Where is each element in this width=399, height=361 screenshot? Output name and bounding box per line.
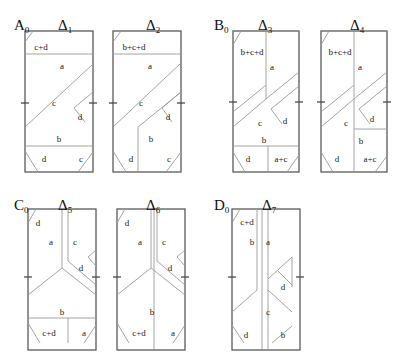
group-label-b: B0 (214, 18, 229, 33)
panel-title-delta5: Δ5 (58, 198, 72, 213)
panel-title-subscript: 2 (156, 25, 161, 35)
region-label: d (166, 112, 171, 122)
region-label: b (149, 134, 154, 144)
panel-title-delta4: Δ4 (350, 18, 364, 33)
region-label: d (129, 154, 134, 164)
panel-border-delta7 (232, 209, 300, 350)
region-label: b (150, 307, 155, 317)
group-label-subscript: 0 (225, 205, 230, 215)
panel-title-delta2: Δ2 (146, 18, 160, 33)
panel-title-subscript: 6 (156, 205, 161, 215)
region-label: d (283, 116, 288, 126)
panel-title-subscript: 5 (68, 205, 73, 215)
panel-title-delta6: Δ6 (146, 198, 160, 213)
region-label: b (57, 134, 62, 144)
region-label: b (262, 135, 267, 145)
panel-delta7: c+dbadcdb (228, 209, 304, 350)
region-label: a (138, 237, 142, 247)
panel-delta1: c+dacdbdc (21, 31, 97, 172)
region-label: a (82, 328, 86, 338)
panel-delta2: b+c+dacdbdc (109, 31, 185, 172)
group-label-a: A0 (14, 18, 29, 33)
panel-title-subscript: 1 (68, 25, 73, 35)
panel-title-delta3: Δ3 (258, 18, 272, 33)
group-label-subscript: 0 (224, 25, 229, 35)
region-label: b+c+d (328, 47, 352, 57)
region-label: a (148, 61, 152, 71)
region-label: d (281, 282, 286, 292)
region-label: b+c+d (122, 42, 146, 52)
region-label: d (168, 263, 173, 273)
region-label: a+c (274, 154, 287, 164)
region-label: a (60, 61, 64, 71)
region-label: a (358, 62, 362, 72)
region-label: d (246, 154, 251, 164)
group-label-c: C0 (14, 198, 29, 213)
region-label: c (52, 98, 56, 108)
region-label: d (335, 154, 340, 164)
region-label: c+d (132, 328, 146, 338)
region-label: c (258, 118, 262, 128)
region-label: d (79, 263, 84, 273)
region-label: a (49, 237, 53, 247)
panel-border-delta1 (25, 31, 93, 172)
panel-border-delta2 (113, 31, 181, 172)
panel-delta5: dacdbc+da (24, 209, 100, 350)
region-label: c (266, 307, 270, 317)
region-label: a (266, 237, 270, 247)
region-label: a+c (363, 154, 376, 164)
panel-title-delta1: Δ1 (58, 18, 72, 33)
panel-title-delta7: Δ7 (262, 198, 276, 213)
panel-title-subscript: 4 (360, 25, 365, 35)
region-label: a (171, 328, 175, 338)
region-label: c (139, 98, 143, 108)
region-label: c (167, 154, 171, 164)
group-label-d: D0 (214, 198, 229, 213)
group-label-subscript: 0 (25, 25, 30, 35)
region-label: b (281, 330, 286, 340)
region-label: c+d (42, 328, 56, 338)
region-label: c (79, 154, 83, 164)
region-label: d (78, 112, 83, 122)
region-label: b+c+d (240, 47, 264, 57)
region-label: c+d (34, 42, 48, 52)
region-label: d (244, 330, 249, 340)
panel-delta3: b+c+dacdbda+c (229, 31, 303, 172)
panel-delta4: b+c+dacdbda+c (317, 31, 391, 172)
region-label: d (370, 114, 375, 124)
region-label: d (42, 154, 47, 164)
panel-title-subscript: 7 (272, 205, 277, 215)
region-label: c+d (240, 217, 254, 227)
region-label: b (359, 136, 364, 146)
region-label: d (36, 218, 41, 228)
group-label-subscript: 0 (24, 205, 29, 215)
region-label: c (344, 118, 348, 128)
panel-title-subscript: 3 (268, 25, 273, 35)
panel-delta6: dacdbc+da (113, 209, 189, 350)
region-label: c (73, 237, 77, 247)
region-label: a (270, 62, 274, 72)
region-label: b (60, 307, 65, 317)
decomposition-figure: c+dacdbdcb+c+dacdbdcb+c+dacdbda+cb+c+dac… (0, 0, 399, 361)
region-label: b (250, 237, 255, 247)
region-label: c (162, 237, 166, 247)
region-label: d (125, 218, 130, 228)
